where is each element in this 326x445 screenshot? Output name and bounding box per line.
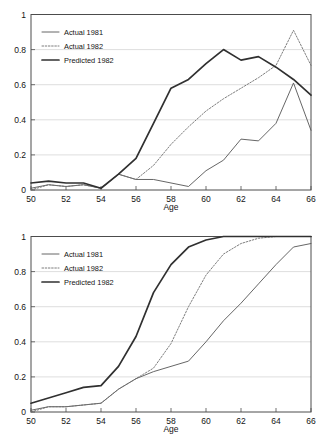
y-tick-label: 0.2 — [14, 150, 26, 160]
x-tick-label: 64 — [271, 194, 281, 204]
x-axis-title-bottom: Age — [163, 424, 178, 434]
y-tick-marks-bottom — [31, 237, 35, 413]
x-tick-label: 52 — [61, 194, 71, 204]
legend-label: Actual 1981 — [64, 28, 103, 37]
grid-lines-bottom — [31, 272, 311, 377]
x-tick-label: 64 — [271, 416, 281, 426]
x-tick-label: 54 — [96, 194, 106, 204]
series-group-top — [31, 30, 311, 190]
x-tick-label: 54 — [96, 416, 106, 426]
legend-label: Predicted 1982 — [64, 278, 114, 287]
x-tick-label: 52 — [61, 416, 71, 426]
legend-label: Actual 1982 — [64, 42, 103, 51]
x-tick-marks-bottom — [31, 408, 311, 412]
x-axis-title-top: Age — [163, 202, 178, 212]
y-tick-labels-bottom: 00.20.40.60.81 — [14, 232, 26, 418]
y-tick-label: 0.4 — [14, 115, 26, 125]
x-tick-label: 60 — [201, 194, 211, 204]
x-tick-label: 66 — [306, 194, 316, 204]
x-tick-label: 60 — [201, 416, 211, 426]
y-tick-label: 0.8 — [14, 267, 26, 277]
legend-label: Actual 1982 — [64, 264, 103, 273]
legend-label: Actual 1981 — [64, 250, 103, 259]
series-line-actual-1981 — [31, 83, 311, 188]
series-line-actual-1982 — [31, 30, 311, 190]
y-tick-label: 0.6 — [14, 302, 26, 312]
grid-lines-top — [31, 50, 311, 155]
y-tick-marks-top — [31, 15, 35, 191]
x-tick-label: 50 — [26, 416, 36, 426]
legend-label: Predicted 1982 — [64, 56, 114, 65]
x-tick-label: 56 — [131, 194, 141, 204]
x-tick-label: 62 — [236, 416, 246, 426]
line-chart-top: 00.20.40.60.81 505254565860626466 Age Ac… — [0, 0, 326, 222]
y-tick-label: 0.6 — [14, 80, 26, 90]
chart-panel-bottom: 00.20.40.60.81 505254565860626466 Age Ac… — [0, 222, 326, 444]
y-tick-label: 0.2 — [14, 372, 26, 382]
series-line-predicted-1982 — [31, 237, 311, 404]
figure-page: 00.20.40.60.81 505254565860626466 Age Ac… — [0, 0, 326, 445]
y-tick-labels-top: 00.20.40.60.81 — [14, 10, 26, 196]
x-tick-label: 66 — [306, 416, 316, 426]
y-tick-label: 1 — [21, 10, 26, 20]
x-tick-marks-top — [31, 186, 311, 190]
y-tick-label: 1 — [21, 232, 26, 242]
legend-bottom: Actual 1981Actual 1982Predicted 1982 — [42, 250, 114, 287]
x-tick-label: 62 — [236, 194, 246, 204]
chart-panel-top: 00.20.40.60.81 505254565860626466 Age Ac… — [0, 0, 326, 222]
x-tick-label: 50 — [26, 194, 36, 204]
y-tick-label: 0.4 — [14, 337, 26, 347]
line-chart-bottom: 00.20.40.60.81 505254565860626466 Age Ac… — [0, 222, 326, 444]
x-tick-label: 56 — [131, 416, 141, 426]
y-tick-label: 0.8 — [14, 45, 26, 55]
legend-top: Actual 1981Actual 1982Predicted 1982 — [42, 28, 114, 65]
